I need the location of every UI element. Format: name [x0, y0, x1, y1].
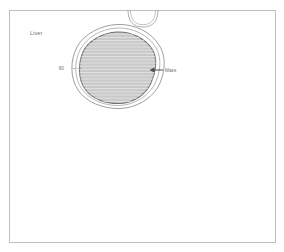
liver-mass-diagram: Liver 60 Mass	[0, 0, 284, 252]
vessel-inner-arc-icon	[131, 10, 156, 25]
capsule-callout-label: 60	[59, 66, 65, 71]
mass-callout-label: Mass	[165, 68, 177, 73]
vessel-arc-group	[128, 10, 158, 27]
hepatic-mass-shape	[79, 32, 155, 104]
organ-label: Liver	[30, 30, 42, 36]
figure-canvas: Liver 60 Mass	[0, 0, 284, 252]
